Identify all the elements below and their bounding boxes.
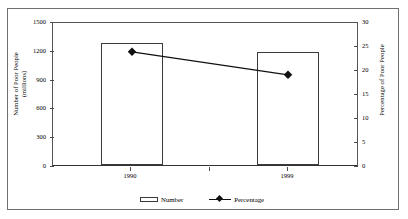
chart-legend: Number Percentage <box>140 192 264 206</box>
legend-label-percentage: Percentage <box>234 196 264 203</box>
category-label-1999: 1999 <box>257 172 317 180</box>
percentage-line-segment <box>132 52 288 75</box>
left-tick-label-300: 300 <box>20 133 46 140</box>
category-tick-center <box>209 167 210 171</box>
legend-entry-number[interactable]: Number <box>140 196 183 203</box>
percentage-series <box>53 23 359 167</box>
left-tick-label-1500: 1500 <box>20 18 46 25</box>
legend-diamond-marker <box>216 195 223 202</box>
category-tick-1999 <box>287 167 288 171</box>
left-axis-title: Number of Poor People (millions) <box>12 24 28 144</box>
chart-figure: Number of Poor People (millions) Percent… <box>0 0 408 219</box>
left-axis-title-line2: (millions) <box>20 24 28 144</box>
left-tick-label-0: 0 <box>20 162 46 169</box>
category-label-1990: 1990 <box>100 172 160 180</box>
category-tick-1990 <box>130 167 131 171</box>
percentage-marker-1990[interactable] <box>128 48 136 56</box>
right-tick-label-15: 15 <box>362 90 388 97</box>
left-tick-label-600: 600 <box>20 104 46 111</box>
right-tick-label-10: 10 <box>362 114 388 121</box>
line-diamond-icon <box>209 196 231 203</box>
plot-area <box>52 22 358 166</box>
right-tick-label-5: 5 <box>362 138 388 145</box>
right-tick-label-0: 0 <box>362 162 388 169</box>
legend-entry-percentage[interactable]: Percentage <box>209 196 264 203</box>
right-tick-label-20: 20 <box>362 66 388 73</box>
left-tick-label-900: 900 <box>20 76 46 83</box>
left-tick-label-1200: 1200 <box>20 47 46 54</box>
percentage-marker-1999[interactable] <box>284 71 292 79</box>
right-axis-title: Percentage of Poor People <box>378 20 386 140</box>
right-tick-label-25: 25 <box>362 42 388 49</box>
legend-label-number: Number <box>161 196 183 203</box>
bar-swatch-icon <box>140 197 158 202</box>
left-axis-title-line1: Number of Poor People <box>12 52 19 116</box>
right-tick-label-30: 30 <box>362 18 388 25</box>
